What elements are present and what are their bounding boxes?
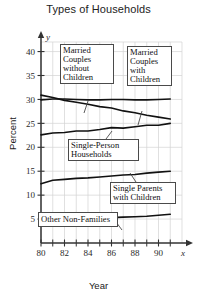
- annotation-other-non-families: Other Non-Families: [38, 212, 118, 227]
- x-tick-label: 84: [84, 248, 94, 258]
- chart-container: Types of Households Percent Year yx51015…: [0, 0, 197, 300]
- x-tick-label: 90: [154, 248, 164, 258]
- y-tick-label: 5: [31, 214, 36, 224]
- annotation-single-parents-with-children: Single Parents with Children: [110, 182, 176, 204]
- y-axis-symbol: y: [45, 32, 50, 42]
- annotation-leader-line: [106, 131, 112, 139]
- x-tick-label: 86: [107, 248, 117, 258]
- y-tick-label: 15: [26, 166, 36, 176]
- annotation-married-couples-with-children: Married Couples with Children: [127, 46, 172, 86]
- x-tick-label: 80: [37, 248, 47, 258]
- y-tick-label: 20: [26, 142, 36, 152]
- y-tick-label: 10: [26, 190, 36, 200]
- annotation-leader-line: [84, 101, 88, 113]
- y-tick-label: 30: [26, 95, 36, 105]
- annotation-leaders: [84, 101, 142, 230]
- x-axis-symbol: x: [180, 248, 185, 258]
- y-tick-label: 40: [26, 47, 36, 57]
- annotation-married-couples-without-children: Married Couples without Children: [60, 44, 114, 84]
- y-tick-label: 25: [26, 119, 36, 129]
- y-tick-label: 35: [26, 71, 36, 81]
- x-tick-label: 88: [131, 248, 141, 258]
- x-tick-label: 82: [60, 248, 69, 258]
- annotation-single-person-households: Single-Person Households: [68, 139, 139, 161]
- series-line: [41, 123, 170, 134]
